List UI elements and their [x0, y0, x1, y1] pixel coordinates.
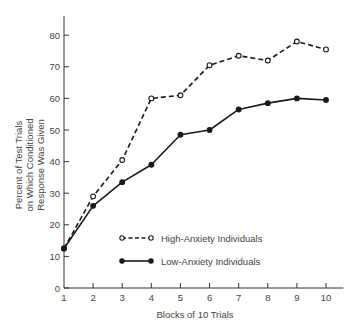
data-point	[265, 58, 270, 63]
data-point	[236, 107, 241, 112]
x-tick-label: 3	[120, 292, 125, 303]
data-point	[178, 132, 183, 137]
data-point	[178, 93, 183, 98]
data-point	[149, 162, 154, 167]
y-tick-label: 70	[49, 61, 60, 72]
series-low-anxiety	[62, 96, 329, 251]
y-tick-label: 40	[49, 156, 60, 167]
data-point	[294, 39, 299, 44]
data-point	[207, 128, 212, 133]
y-axis-title-line: Response Was Given	[35, 119, 46, 211]
legend-marker	[149, 236, 153, 240]
y-tick-label: 20	[49, 219, 60, 230]
data-point	[120, 158, 125, 163]
series-line	[64, 98, 326, 248]
y-axis-ticks: 01020304050607080	[49, 30, 69, 294]
y-axis-title-line: Percent of Test Trials	[13, 120, 24, 209]
legend-marker	[120, 259, 124, 263]
data-point	[324, 98, 329, 103]
x-axis-title: Blocks of 10 Trials	[156, 309, 233, 320]
series-layer	[62, 39, 329, 251]
data-point	[91, 203, 96, 208]
legend-item: High-Anxiety Individuals	[120, 233, 263, 244]
y-axis-title-line: on Which Conditioned	[24, 119, 35, 212]
axes	[64, 16, 343, 288]
legend-marker	[120, 236, 124, 240]
data-point	[236, 53, 241, 58]
x-tick-label: 2	[90, 292, 95, 303]
data-point	[149, 96, 154, 101]
series-line	[64, 42, 326, 249]
legend-label: Low-Anxiety Individuals	[161, 256, 261, 267]
y-axis-title: Percent of Test Trialson Which Condition…	[13, 119, 46, 212]
data-point	[294, 96, 299, 101]
data-point	[120, 180, 125, 185]
line-chart: 01020304050607080 12345678910 High-Anxie…	[0, 0, 359, 328]
y-tick-label: 60	[49, 93, 60, 104]
legend-item: Low-Anxiety Individuals	[120, 256, 261, 267]
data-point	[91, 194, 96, 199]
x-tick-label: 6	[207, 292, 212, 303]
x-tick-label: 5	[178, 292, 183, 303]
x-tick-label: 4	[149, 292, 154, 303]
series-high-anxiety	[62, 39, 329, 251]
legend-marker	[149, 259, 153, 263]
x-tick-label: 10	[321, 292, 332, 303]
data-point	[207, 63, 212, 68]
data-point	[324, 47, 329, 52]
y-tick-label: 80	[49, 30, 60, 41]
data-point	[62, 246, 67, 251]
y-tick-label: 50	[49, 125, 60, 136]
x-tick-label: 1	[61, 292, 66, 303]
data-point	[265, 101, 270, 106]
legend-label: High-Anxiety Individuals	[161, 233, 263, 244]
x-tick-label: 8	[265, 292, 270, 303]
x-tick-label: 7	[236, 292, 241, 303]
y-tick-label: 10	[49, 251, 60, 262]
y-tick-label: 30	[49, 188, 60, 199]
x-axis-ticks: 12345678910	[61, 283, 331, 303]
y-tick-label: 0	[55, 283, 60, 294]
legend: High-Anxiety IndividualsLow-Anxiety Indi…	[120, 233, 263, 267]
x-tick-label: 9	[294, 292, 299, 303]
